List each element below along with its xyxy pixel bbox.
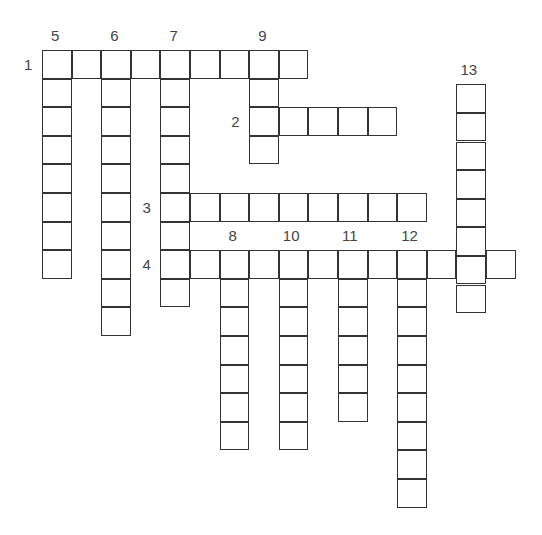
crossword-cell[interactable] bbox=[338, 365, 368, 394]
crossword-cell[interactable] bbox=[101, 136, 131, 165]
crossword-cell[interactable] bbox=[427, 250, 457, 279]
crossword-cell[interactable] bbox=[220, 365, 250, 394]
crossword-cell[interactable] bbox=[160, 107, 190, 136]
crossword-cell[interactable] bbox=[101, 193, 131, 222]
crossword-cell[interactable] bbox=[101, 279, 131, 308]
crossword-cell[interactable] bbox=[368, 193, 398, 222]
crossword-cell[interactable] bbox=[249, 107, 279, 136]
crossword-cell[interactable] bbox=[397, 479, 427, 508]
clue-number-8: 8 bbox=[229, 228, 237, 243]
crossword-cell[interactable] bbox=[220, 193, 250, 222]
crossword-cell[interactable] bbox=[456, 170, 486, 199]
crossword-cell[interactable] bbox=[368, 107, 398, 136]
crossword-cell[interactable] bbox=[456, 256, 486, 285]
crossword-cell[interactable] bbox=[397, 307, 427, 336]
crossword-cell[interactable] bbox=[279, 336, 309, 365]
crossword-cell[interactable] bbox=[397, 450, 427, 479]
crossword-cell[interactable] bbox=[101, 164, 131, 193]
crossword-cell[interactable] bbox=[160, 279, 190, 308]
crossword-cell[interactable] bbox=[72, 50, 102, 79]
crossword-cell[interactable] bbox=[249, 136, 279, 165]
clue-number-1: 1 bbox=[24, 57, 32, 72]
clue-number-11: 11 bbox=[342, 228, 358, 243]
crossword-cell[interactable] bbox=[279, 365, 309, 394]
crossword-cell[interactable] bbox=[249, 250, 279, 279]
crossword-cell[interactable] bbox=[160, 50, 190, 79]
crossword-cell[interactable] bbox=[42, 50, 72, 79]
crossword-cell[interactable] bbox=[160, 79, 190, 108]
crossword-cell[interactable] bbox=[42, 107, 72, 136]
crossword-cell[interactable] bbox=[397, 422, 427, 451]
crossword-cell[interactable] bbox=[397, 336, 427, 365]
clue-number-10: 10 bbox=[283, 228, 300, 243]
crossword-cell[interactable] bbox=[308, 193, 338, 222]
crossword-cell[interactable] bbox=[42, 164, 72, 193]
crossword-cell[interactable] bbox=[42, 250, 72, 279]
crossword-cell[interactable] bbox=[397, 365, 427, 394]
crossword-cell[interactable] bbox=[190, 50, 220, 79]
crossword-cell[interactable] bbox=[42, 222, 72, 251]
crossword-cell[interactable] bbox=[190, 193, 220, 222]
crossword-cell[interactable] bbox=[338, 393, 368, 422]
crossword-cell[interactable] bbox=[249, 50, 279, 79]
crossword-cell[interactable] bbox=[338, 193, 368, 222]
crossword-cell[interactable] bbox=[101, 250, 131, 279]
crossword-cell[interactable] bbox=[190, 250, 220, 279]
crossword-cell[interactable] bbox=[456, 142, 486, 171]
crossword-cell[interactable] bbox=[338, 279, 368, 308]
crossword-cell[interactable] bbox=[101, 307, 131, 336]
crossword-cell[interactable] bbox=[42, 193, 72, 222]
crossword-cell[interactable] bbox=[42, 79, 72, 108]
crossword-cell[interactable] bbox=[456, 84, 486, 113]
crossword-cell[interactable] bbox=[160, 193, 190, 222]
crossword-cell[interactable] bbox=[160, 250, 190, 279]
crossword-cell[interactable] bbox=[42, 136, 72, 165]
clue-number-13: 13 bbox=[460, 62, 477, 77]
crossword-cell[interactable] bbox=[220, 307, 250, 336]
crossword-cell[interactable] bbox=[220, 336, 250, 365]
crossword-cell[interactable] bbox=[279, 50, 309, 79]
crossword-cell[interactable] bbox=[338, 250, 368, 279]
crossword-cell[interactable] bbox=[279, 250, 309, 279]
crossword-cell[interactable] bbox=[160, 222, 190, 251]
crossword-cell[interactable] bbox=[397, 393, 427, 422]
crossword-cell[interactable] bbox=[279, 422, 309, 451]
crossword-cell[interactable] bbox=[279, 193, 309, 222]
crossword-cell[interactable] bbox=[338, 107, 368, 136]
crossword-cell[interactable] bbox=[101, 79, 131, 108]
clue-number-7: 7 bbox=[169, 28, 177, 43]
crossword-cell[interactable] bbox=[456, 285, 486, 314]
crossword-cell[interactable] bbox=[249, 79, 279, 108]
crossword-cell[interactable] bbox=[160, 164, 190, 193]
crossword-cell[interactable] bbox=[220, 422, 250, 451]
crossword-cell[interactable] bbox=[397, 250, 427, 279]
crossword-cell[interactable] bbox=[397, 193, 427, 222]
crossword-cell[interactable] bbox=[338, 307, 368, 336]
crossword-cell[interactable] bbox=[101, 50, 131, 79]
crossword-cell[interactable] bbox=[220, 50, 250, 79]
clue-number-9: 9 bbox=[258, 28, 266, 43]
crossword-cell[interactable] bbox=[101, 107, 131, 136]
crossword-cell[interactable] bbox=[220, 250, 250, 279]
crossword-cell[interactable] bbox=[279, 393, 309, 422]
crossword-cell[interactable] bbox=[456, 113, 486, 142]
crossword-cell[interactable] bbox=[279, 279, 309, 308]
crossword-cell[interactable] bbox=[220, 393, 250, 422]
crossword-cell[interactable] bbox=[456, 199, 486, 228]
crossword-cell[interactable] bbox=[101, 222, 131, 251]
clue-number-6: 6 bbox=[110, 28, 118, 43]
crossword-cell[interactable] bbox=[308, 250, 338, 279]
crossword-cell[interactable] bbox=[397, 279, 427, 308]
crossword-cell[interactable] bbox=[279, 307, 309, 336]
crossword-cell[interactable] bbox=[308, 107, 338, 136]
crossword-cell[interactable] bbox=[160, 136, 190, 165]
crossword-cell[interactable] bbox=[456, 227, 486, 256]
crossword-cell[interactable] bbox=[486, 250, 516, 279]
crossword-cell[interactable] bbox=[220, 279, 250, 308]
crossword-cell[interactable] bbox=[131, 50, 161, 79]
clue-number-12: 12 bbox=[401, 228, 418, 243]
crossword-cell[interactable] bbox=[279, 107, 309, 136]
crossword-cell[interactable] bbox=[338, 336, 368, 365]
crossword-cell[interactable] bbox=[368, 250, 398, 279]
crossword-cell[interactable] bbox=[249, 193, 279, 222]
